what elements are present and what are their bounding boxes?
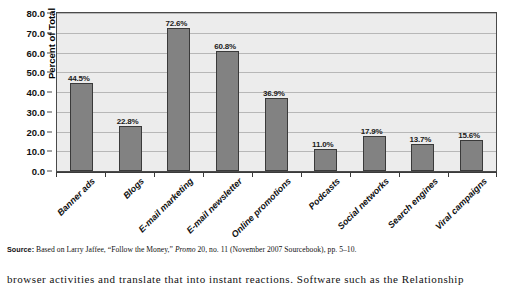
y-tick-label: 30.0 [27,106,46,117]
bar-slot: 36.9% [252,13,301,171]
y-tick-label: 10.0 [27,146,46,157]
bar-value-label: 60.8% [214,42,236,51]
bar[interactable]: 60.8% [216,51,239,171]
source-italic: Promo [175,245,196,254]
bar-value-label: 15.6% [458,131,480,140]
y-tick-mark [47,131,52,132]
bar[interactable]: 36.9% [265,98,288,171]
x-axis-category-label: Blogs [122,176,147,201]
bar-slot: 60.8% [203,13,252,171]
bar-slot: 13.7% [398,13,447,171]
source-note: Source: Based on Larry Jaffee, “Follow t… [7,245,357,254]
bar[interactable]: 11.0% [314,149,337,171]
y-tick-mark [47,32,52,33]
y-tick-mark [47,52,52,53]
x-axis-category-label: Search engines [386,176,440,230]
bar-value-label: 44.5% [68,74,90,83]
y-tick-label: 60.0 [27,47,46,58]
bar[interactable]: 13.7% [411,144,434,171]
y-tick-mark [47,171,52,172]
bar-slot: 72.6% [155,13,204,171]
y-tick-mark [47,111,52,112]
bar[interactable]: 15.6% [460,140,483,171]
x-axis-labels: Banner adsBlogsE-mail marketingE-mail ne… [56,176,497,238]
plot-area: 44.5%22.8%72.6%60.8%36.9%11.0%17.9%13.7%… [56,12,497,172]
bar-value-label: 36.9% [263,89,285,98]
bar-value-label: 72.6% [166,19,188,28]
y-tick-label: 40.0 [27,87,46,98]
bar[interactable]: 72.6% [167,28,190,171]
source-text-tail: 20, no. 11 (November 2007 Sourcebook), p… [196,245,357,254]
bar[interactable]: 44.5% [70,83,93,171]
y-tick-label: 80.0 [27,8,46,19]
figure-container: Percent of Total 0.010.020.030.040.050.0… [0,0,513,287]
bar-value-label: 11.0% [312,140,333,149]
y-tick-label: 0.0 [32,166,45,177]
x-axis-category-label: Podcasts [307,176,342,211]
bar[interactable]: 17.9% [363,136,386,171]
x-axis-category-label: Viral campaigns [434,176,490,232]
x-axis-category-label: Social networks [336,176,392,232]
bar-slot: 15.6% [447,13,496,171]
y-tick-mark [47,151,52,152]
y-tick-label: 50.0 [27,67,46,78]
source-text: Based on Larry Jaffee, “Follow the Money… [34,245,175,254]
body-text-line: browser activities and translate that in… [7,273,507,285]
bar-slot: 11.0% [301,13,350,171]
bar-value-label: 13.7% [409,135,431,144]
y-tick-label: 20.0 [27,126,46,137]
bar[interactable]: 22.8% [119,126,142,171]
x-axis-category-label: Banner ads [56,176,98,218]
y-tick-mark [47,72,52,73]
bars-container: 44.5%22.8%72.6%60.8%36.9%11.0%17.9%13.7%… [57,13,496,171]
source-label: Source: [7,245,34,254]
y-tick-mark [47,13,52,14]
bar-value-label: 17.9% [361,127,383,136]
y-tick-mark [47,92,52,93]
bar-slot: 22.8% [106,13,155,171]
y-axis-ticks: 0.010.020.030.040.050.060.070.080.0 [0,12,52,172]
y-tick-label: 70.0 [27,27,46,38]
bar-slot: 17.9% [350,13,399,171]
bar-value-label: 22.8% [117,117,139,126]
bar-slot: 44.5% [57,13,106,171]
